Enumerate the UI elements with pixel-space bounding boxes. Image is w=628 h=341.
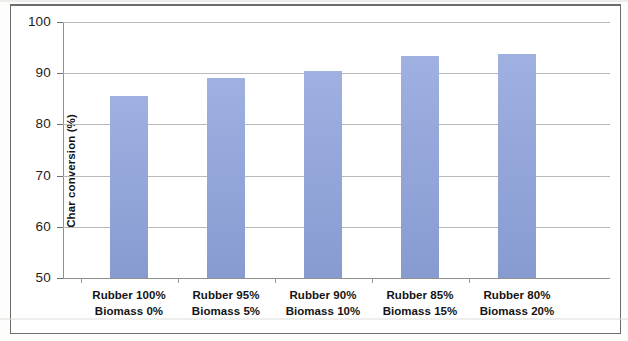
x-axis-label: Rubber 100%Biomass 0% <box>74 288 184 319</box>
x-axis-label-line2: Biomass 10% <box>268 304 378 320</box>
x-axis-label: Rubber 95%Biomass 5% <box>171 288 281 319</box>
y-tick-mark <box>57 176 63 177</box>
x-axis-label: Rubber 80%Biomass 20% <box>462 288 572 319</box>
scan-artifact <box>0 0 628 2</box>
y-tick-mark <box>57 22 63 23</box>
bar <box>207 78 245 278</box>
x-axis-origin-tick <box>81 278 82 283</box>
x-tick-separator <box>178 278 179 283</box>
gridline-50 <box>63 278 610 279</box>
x-tick-separator <box>469 278 470 283</box>
y-tick-label-60: 60 <box>11 220 51 234</box>
x-axis-label-line1: Rubber 85% <box>365 288 475 304</box>
figure: Char conversion (%) 5060708090100 Rubber… <box>0 0 628 341</box>
x-axis-label-line2: Biomass 0% <box>74 304 184 320</box>
x-axis-label-line2: Biomass 15% <box>365 304 475 320</box>
bar <box>401 56 439 278</box>
y-tick-label-80: 80 <box>11 118 51 132</box>
x-axis-label: Rubber 90%Biomass 10% <box>268 288 378 319</box>
x-axis-label-line1: Rubber 100% <box>74 288 184 304</box>
x-axis-label-line1: Rubber 80% <box>462 288 572 304</box>
y-tick-mark <box>57 73 63 74</box>
y-tick-label-50: 50 <box>11 271 51 285</box>
x-axis-label-line1: Rubber 90% <box>268 288 378 304</box>
x-tick-separator <box>372 278 373 283</box>
x-axis-label-line1: Rubber 95% <box>171 288 281 304</box>
gridline-100 <box>63 22 610 23</box>
bar <box>304 71 342 278</box>
y-tick-label-90: 90 <box>11 66 51 80</box>
bar <box>110 96 148 278</box>
y-tick-label-70: 70 <box>11 169 51 183</box>
y-tick-mark <box>57 278 63 279</box>
bar <box>498 54 536 278</box>
x-axis-label-line2: Biomass 20% <box>462 304 572 320</box>
y-tick-label-100: 100 <box>11 15 51 29</box>
x-axis-label-line2: Biomass 5% <box>171 304 281 320</box>
x-tick-separator <box>275 278 276 283</box>
y-tick-mark <box>57 227 63 228</box>
x-axis-label: Rubber 85%Biomass 15% <box>365 288 475 319</box>
y-tick-mark <box>57 124 63 125</box>
